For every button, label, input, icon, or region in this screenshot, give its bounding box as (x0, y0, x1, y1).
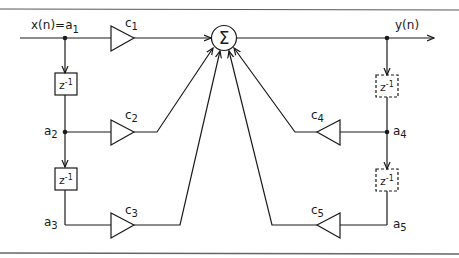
amplifier-c2 (111, 120, 134, 145)
coef-label-c5: c5 (311, 203, 324, 219)
node-label-a4: a4 (393, 124, 407, 140)
junction-a2 (63, 130, 68, 135)
c5-to-sum (229, 51, 317, 225)
junction-a1 (63, 36, 68, 41)
top-border (0, 9, 459, 10)
c2-to-sum (134, 48, 213, 132)
bottom-border (0, 253, 459, 254)
junction-y (385, 36, 390, 41)
coef-label-c1: c1 (125, 16, 138, 32)
c3-to-sum (134, 51, 220, 225)
filter-diagram: Σ x(n)=a1 y(n) c1 c2 c3 c4 c5 a2 a3 a4 a… (0, 0, 459, 258)
delay-label-1: z-1 (59, 78, 73, 92)
coef-label-c4: c4 (311, 108, 324, 124)
junction-a4 (385, 130, 390, 135)
input-label: x(n)=a1 (31, 18, 79, 35)
sum-symbol: Σ (219, 28, 230, 48)
coef-label-c2: c2 (125, 108, 138, 124)
node-label-a2: a2 (44, 124, 58, 140)
output-label: y(n) (395, 18, 419, 32)
coef-label-c3: c3 (125, 203, 138, 219)
delay-label-4: z-1 (380, 174, 394, 188)
delay-label-3: z-1 (380, 80, 394, 94)
node-label-a3: a3 (44, 215, 58, 231)
node-label-a5: a5 (393, 217, 407, 233)
delay-label-2: z-1 (59, 173, 73, 187)
